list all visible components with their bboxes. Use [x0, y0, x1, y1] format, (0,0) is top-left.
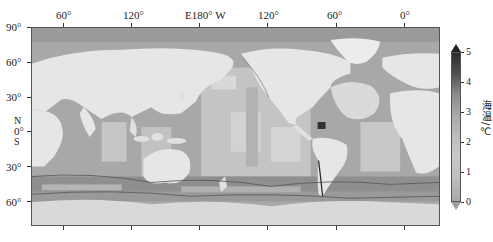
colorbar-label-1: 1 — [466, 167, 471, 177]
lon-tick — [267, 226, 268, 230]
colorbar-tick — [461, 202, 464, 203]
lat-label-60s: 60° — [6, 197, 21, 208]
colorbar-label-2: 2 — [466, 137, 471, 147]
colorbar-label-4: 4 — [466, 77, 471, 87]
lon-tick — [336, 226, 337, 230]
lat-label-30n: 30° — [6, 92, 21, 103]
colorbar-label-3: 3 — [466, 107, 471, 117]
lat-label-60n: 60° — [6, 57, 21, 68]
world-map-graphic — [32, 28, 439, 225]
lon-label-60w: 60° — [327, 10, 342, 21]
colorbar-tick — [461, 82, 464, 83]
colorbar-tick — [461, 112, 464, 113]
lon-label-120e: 120° — [123, 10, 144, 21]
south-label: S — [14, 137, 20, 147]
map-plot-area — [31, 27, 440, 226]
lon-label-180: E180° W — [185, 10, 226, 21]
colorbar — [451, 52, 461, 202]
lon-label-60e: 60° — [56, 10, 71, 21]
lat-label-30s: 30° — [6, 162, 21, 173]
lon-tick — [131, 226, 132, 230]
colorbar-tick — [461, 142, 464, 143]
colorbar-extend-max-arrow — [451, 44, 461, 52]
lon-label-120w: 120° — [258, 10, 279, 21]
lon-tick — [63, 226, 64, 230]
lon-tick — [404, 226, 405, 230]
lon-label-0: 0° — [400, 10, 410, 21]
colorbar-label-0: 0 — [466, 197, 471, 207]
colorbar-label-5: 5 — [466, 47, 471, 57]
lat-label-90n: 90° — [6, 22, 21, 33]
colorbar-extend-min-arrow — [451, 202, 461, 210]
sea-temperature-map-figure: 60° 120° E180° W 120° 60° 0° 90° 60° 30°… — [0, 0, 493, 242]
colorbar-title: 海温/℃ — [478, 100, 493, 138]
colorbar-tick — [461, 52, 464, 53]
lon-tick — [199, 226, 200, 230]
colorbar-tick — [461, 172, 464, 173]
